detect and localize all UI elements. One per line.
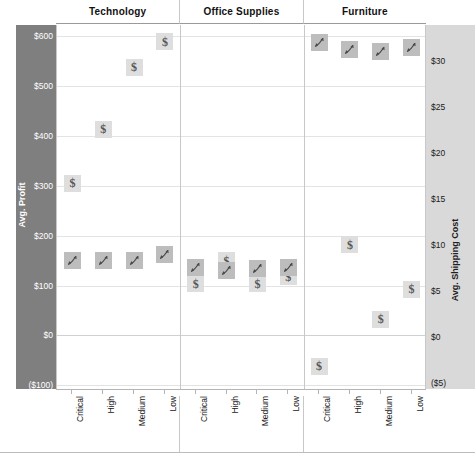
x-axis-tick bbox=[71, 390, 72, 394]
dollar-glyph: $ bbox=[409, 283, 415, 295]
x-axis-tick bbox=[226, 390, 227, 394]
panel-separator bbox=[304, 25, 305, 389]
gridline bbox=[57, 186, 425, 187]
gridline bbox=[57, 36, 425, 37]
panel-header-label: Technology bbox=[89, 6, 146, 17]
dollar-sign-marker[interactable]: $ bbox=[249, 275, 266, 292]
plot-area: $$$$$$$$$$$$ bbox=[56, 25, 426, 389]
shipping-arrow-marker[interactable] bbox=[403, 39, 420, 56]
dollar-sign-marker[interactable]: $ bbox=[64, 175, 81, 192]
left-axis-tick: $0 bbox=[44, 331, 53, 340]
zero-gridline bbox=[57, 335, 425, 336]
x-axis-tick bbox=[287, 390, 288, 394]
x-axis-label: Medium bbox=[384, 396, 394, 426]
left-axis-tick: $600 bbox=[34, 32, 53, 41]
dollar-sign-marker[interactable]: $ bbox=[187, 275, 204, 292]
x-axis-label: High bbox=[106, 396, 116, 413]
x-axis-tick bbox=[133, 390, 134, 394]
dollar-glyph: $ bbox=[316, 360, 322, 372]
left-axis-tick: $300 bbox=[34, 182, 53, 191]
right-axis-tick: $20 bbox=[431, 149, 445, 158]
left-axis-title: Avg. Profit bbox=[17, 175, 27, 235]
panel-separator bbox=[180, 25, 181, 389]
x-axis-labels: CriticalHighMediumLowCriticalHighMediumL… bbox=[56, 396, 426, 453]
panel-header-label: Furniture bbox=[342, 6, 388, 17]
x-axis-tick bbox=[380, 390, 381, 394]
dual-axis-scatter-chart: TechnologyOffice SuppliesFurniture Avg. … bbox=[0, 0, 475, 453]
gridline bbox=[57, 136, 425, 137]
shipping-arrow-marker[interactable] bbox=[218, 262, 235, 279]
dollar-glyph: $ bbox=[254, 278, 260, 290]
x-axis-label: Critical bbox=[75, 396, 85, 422]
shipping-arrow-marker[interactable] bbox=[64, 252, 81, 269]
gridline bbox=[57, 86, 425, 87]
dollar-glyph: $ bbox=[100, 123, 106, 135]
gridline bbox=[57, 286, 425, 287]
x-axis-tick bbox=[411, 390, 412, 394]
right-axis-tick: $25 bbox=[431, 103, 445, 112]
x-axis-label: Medium bbox=[137, 396, 147, 426]
left-axis-tick: $100 bbox=[34, 282, 53, 291]
dollar-glyph: $ bbox=[162, 36, 168, 48]
dollar-glyph: $ bbox=[193, 278, 199, 290]
x-axis-tick bbox=[195, 390, 196, 394]
dollar-sign-marker[interactable]: $ bbox=[126, 59, 143, 76]
dollar-glyph: $ bbox=[131, 61, 137, 73]
x-axis-tick bbox=[318, 390, 319, 394]
dollar-sign-marker[interactable]: $ bbox=[341, 236, 358, 253]
dollar-glyph: $ bbox=[69, 177, 75, 189]
x-axis-panel-separator bbox=[303, 396, 304, 453]
x-axis-label: High bbox=[353, 396, 363, 413]
dollar-sign-marker[interactable]: $ bbox=[372, 311, 389, 328]
left-axis-avg-profit: Avg. Profit $600$500$400$300$200$100$0($… bbox=[16, 25, 56, 389]
x-axis-label: Medium bbox=[260, 396, 270, 426]
x-axis-panel-separator bbox=[179, 396, 180, 453]
left-axis-tick: $200 bbox=[34, 232, 53, 241]
dollar-glyph: $ bbox=[347, 239, 353, 251]
left-axis-tick: $500 bbox=[34, 82, 53, 91]
x-axis-tick bbox=[102, 390, 103, 394]
dollar-sign-marker[interactable]: $ bbox=[311, 358, 328, 375]
left-axis-tick: $400 bbox=[34, 132, 53, 141]
x-axis-tick bbox=[349, 390, 350, 394]
x-axis-label: Critical bbox=[199, 396, 209, 422]
x-axis-label: Low bbox=[415, 396, 425, 412]
panel-header-office-supplies: Office Supplies bbox=[179, 0, 302, 24]
shipping-arrow-marker[interactable] bbox=[156, 246, 173, 263]
left-axis-tick: ($100) bbox=[28, 381, 53, 390]
right-axis-tick: $0 bbox=[431, 333, 440, 342]
shipping-arrow-marker[interactable] bbox=[280, 259, 297, 276]
x-axis-label: High bbox=[230, 396, 240, 413]
shipping-arrow-marker[interactable] bbox=[187, 259, 204, 276]
dollar-sign-marker[interactable]: $ bbox=[95, 121, 112, 138]
x-axis-label: Low bbox=[168, 396, 178, 412]
dollar-sign-marker[interactable]: $ bbox=[403, 281, 420, 298]
x-axis-label: Low bbox=[291, 396, 301, 412]
panel-header-furniture: Furniture bbox=[303, 0, 426, 24]
shipping-arrow-marker[interactable] bbox=[249, 260, 266, 277]
right-axis-tick: $10 bbox=[431, 241, 445, 250]
gridline bbox=[57, 236, 425, 237]
dollar-glyph: $ bbox=[378, 313, 384, 325]
shipping-arrow-marker[interactable] bbox=[95, 252, 112, 269]
right-axis-tick: $5 bbox=[431, 287, 440, 296]
shipping-arrow-marker[interactable] bbox=[126, 252, 143, 269]
x-axis-label: Critical bbox=[322, 396, 332, 422]
x-axis-tick bbox=[256, 390, 257, 394]
x-axis-tick bbox=[164, 390, 165, 394]
right-axis-title: Avg. Shipping Cost bbox=[450, 205, 460, 315]
shipping-arrow-marker[interactable] bbox=[311, 34, 328, 51]
shipping-arrow-marker[interactable] bbox=[372, 43, 389, 60]
right-axis-tick: $30 bbox=[431, 57, 445, 66]
right-axis-tick: ($5) bbox=[431, 379, 446, 388]
panel-header-label: Office Supplies bbox=[204, 6, 280, 17]
panel-header-row: TechnologyOffice SuppliesFurniture bbox=[56, 0, 426, 25]
shipping-arrow-marker[interactable] bbox=[341, 41, 358, 58]
panel-header-technology: Technology bbox=[56, 0, 179, 24]
right-axis-tick: $15 bbox=[431, 195, 445, 204]
dollar-sign-marker[interactable]: $ bbox=[156, 33, 173, 50]
gridline bbox=[57, 385, 425, 386]
